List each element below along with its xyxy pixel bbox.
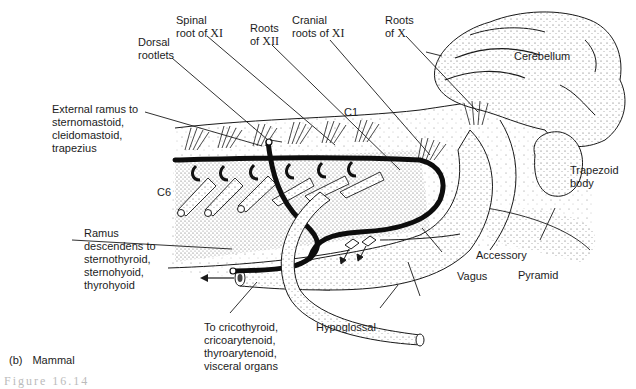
label-line: Dorsal	[138, 36, 174, 49]
label-line: of X	[385, 27, 414, 40]
label-spinal-root-xi: Spinal root of XI	[176, 14, 223, 40]
panel-letter: (b)	[9, 354, 22, 366]
roman-numeral: XI	[332, 26, 345, 40]
label-roots-x: Roots of X	[385, 14, 414, 40]
label-external-ramus: External ramus to sternomastoid, cleidom…	[52, 103, 138, 155]
label-hypoglossal: Hypoglossal	[316, 321, 376, 334]
diagram-stage: Spinal root of XI Roots of XII Cranial r…	[0, 0, 636, 389]
label-cranial-roots-xi: Cranial roots of XI	[292, 14, 344, 40]
label-line: descendens to	[84, 240, 156, 253]
label-text: of	[250, 35, 262, 47]
roman-numeral: XII	[262, 34, 279, 48]
label-line: root of XI	[176, 27, 223, 40]
label-line: cricoarytenoid,	[204, 334, 278, 347]
label-c6: C6	[157, 186, 171, 199]
label-c1: C1	[344, 106, 358, 119]
label-line: To cricothyroid,	[204, 321, 278, 334]
label-text: of	[385, 27, 397, 39]
panel-title: Mammal	[32, 354, 74, 366]
label-text: roots of	[292, 27, 332, 39]
label-accessory: Accessory	[476, 249, 527, 262]
label-line: sternohyoid,	[84, 266, 156, 279]
label-vagus: Vagus	[457, 270, 487, 283]
figure-caption-fragment: Figure 16.14	[4, 374, 89, 389]
roman-numeral: X	[397, 26, 406, 40]
label-line: Trapezoid	[570, 164, 619, 177]
label-line: Ramus	[84, 227, 156, 240]
label-line: trapezius	[52, 142, 138, 155]
label-line: visceral organs	[204, 360, 278, 373]
label-roots-xii: Roots of XII	[250, 22, 279, 48]
label-line: roots of XI	[292, 27, 344, 40]
label-line: cleidomastoid,	[52, 129, 138, 142]
label-line: sternomastoid,	[52, 116, 138, 129]
label-line: of XII	[250, 35, 279, 48]
label-cerebellum: Cerebellum	[514, 50, 570, 63]
panel-caption: (b)Mammal	[9, 354, 75, 367]
label-line: sternothyroid,	[84, 253, 156, 266]
label-ramus-descendens: Ramus descendens to sternothyroid, stern…	[84, 227, 156, 292]
label-line: body	[570, 177, 619, 190]
label-line: External ramus to	[52, 103, 138, 116]
roman-numeral: XI	[210, 26, 223, 40]
label-dorsal-rootlets: Dorsal rootlets	[138, 36, 174, 62]
label-pyramid: Pyramid	[518, 269, 558, 282]
label-text: root of	[176, 27, 210, 39]
ramus-descendens-end	[230, 268, 236, 274]
label-to-cricothyroid: To cricothyroid, cricoarytenoid, thyroar…	[204, 321, 278, 373]
label-line: thyrohyoid	[84, 279, 156, 292]
label-line: thyroarytenoid,	[204, 347, 278, 360]
label-trapezoid-body: Trapezoid body	[570, 164, 619, 190]
label-line: rootlets	[138, 49, 174, 62]
